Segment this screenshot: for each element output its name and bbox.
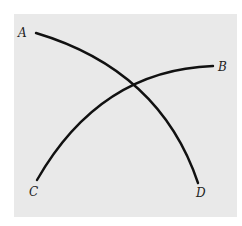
curve-c-to-b — [37, 66, 213, 180]
label-b: B — [217, 60, 227, 74]
label-c: C — [29, 185, 38, 199]
label-a: A — [17, 26, 27, 40]
label-d: D — [195, 186, 206, 200]
curve-a-to-d — [36, 33, 198, 183]
crossing-curves-diagram: A B C D — [0, 0, 242, 226]
